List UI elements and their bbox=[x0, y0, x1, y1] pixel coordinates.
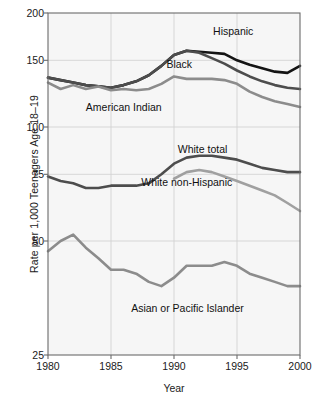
x-tick-label: 1995 bbox=[215, 360, 259, 372]
series-label-white-total: White total bbox=[178, 143, 228, 155]
series-label-hispanic: Hispanic bbox=[213, 25, 253, 37]
x-tick-label: 1980 bbox=[26, 360, 70, 372]
x-tick-label: 1990 bbox=[152, 360, 196, 372]
y-axis-title: Rate per 1,000 Teenagers Age 18–19 bbox=[28, 64, 40, 304]
x-tick-label: 2000 bbox=[278, 360, 315, 372]
x-axis-title: Year bbox=[48, 382, 300, 394]
chart-figure: 255075100150200 Rate per 1,000 Teenagers… bbox=[0, 0, 315, 403]
y-tick-label: 200 bbox=[14, 7, 44, 19]
chart-plot-area bbox=[0, 0, 315, 403]
series-label-black: Black bbox=[166, 58, 192, 70]
series-label-white-non-hispanic: White non-Hispanic bbox=[141, 176, 232, 188]
series-label-asian-or-pacific-islander: Asian or Pacific Islander bbox=[131, 302, 244, 314]
x-tick-label: 1985 bbox=[89, 360, 133, 372]
series-label-american-indian: American Indian bbox=[86, 101, 162, 113]
